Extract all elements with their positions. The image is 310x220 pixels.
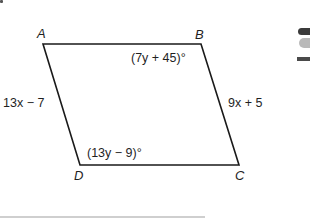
bottom-divider (0, 216, 205, 218)
fragment-light-shape (299, 38, 310, 48)
angle-label-d: (13y − 9)° (87, 147, 142, 160)
angle-label-b: (7y + 45)° (131, 52, 186, 65)
cropped-image-fragment (296, 24, 310, 66)
stray-mark (0, 0, 3, 3)
vertex-label-c: C (235, 169, 244, 182)
side-label-bc: 9x + 5 (228, 97, 262, 110)
vertex-label-d: D (74, 169, 83, 182)
fragment-bar-shape (297, 57, 310, 61)
vertex-label-b: B (195, 28, 204, 41)
vertex-label-a: A (37, 27, 46, 40)
side-label-ad: 13x − 7 (3, 97, 44, 110)
parallelogram-figure: A B C D (7y + 45)° (13y − 9)° 13x − 7 9x… (0, 0, 310, 220)
fragment-dark-shape (298, 28, 310, 35)
parallelogram-shape (0, 0, 310, 220)
